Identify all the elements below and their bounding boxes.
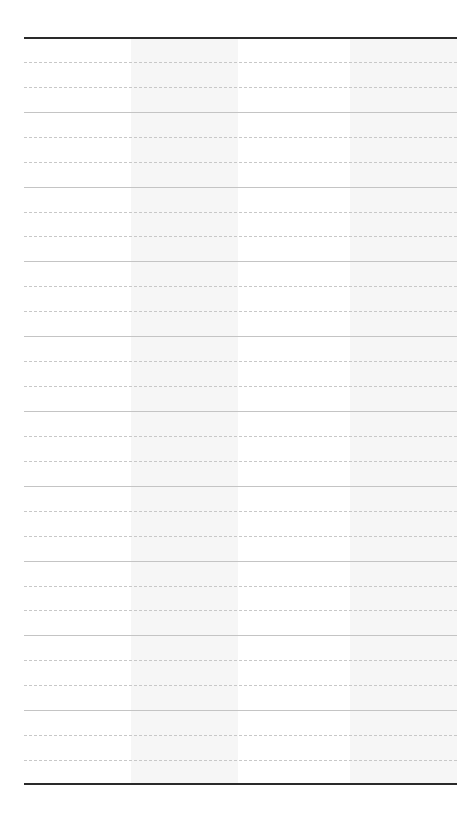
row-rule xyxy=(24,162,457,163)
row-rule xyxy=(24,461,457,462)
row-rule xyxy=(24,336,457,337)
row-rule xyxy=(24,236,457,237)
row-rule xyxy=(24,137,457,138)
row-rule xyxy=(24,87,457,88)
row-rule xyxy=(24,710,457,711)
row-rule xyxy=(24,610,457,611)
row-rule xyxy=(24,361,457,362)
row-rule xyxy=(24,586,457,587)
row-rule xyxy=(24,536,457,537)
row-rule xyxy=(24,212,457,213)
row-rule xyxy=(24,187,457,188)
bottom-rule xyxy=(24,783,457,785)
row-rule xyxy=(24,760,457,761)
row-rule xyxy=(24,635,457,636)
row-rule xyxy=(24,311,457,312)
row-rule xyxy=(24,386,457,387)
row-rule xyxy=(24,286,457,287)
row-rule xyxy=(24,261,457,262)
row-rule xyxy=(24,511,457,512)
row-rule xyxy=(24,660,457,661)
row-rule xyxy=(24,62,457,63)
row-rule xyxy=(24,735,457,736)
row-rule xyxy=(24,411,457,412)
table-rows xyxy=(24,37,457,785)
row-rule xyxy=(24,486,457,487)
ruled-table xyxy=(24,37,457,785)
row-rule xyxy=(24,112,457,113)
row-rule xyxy=(24,685,457,686)
row-rule xyxy=(24,561,457,562)
row-rule xyxy=(24,436,457,437)
